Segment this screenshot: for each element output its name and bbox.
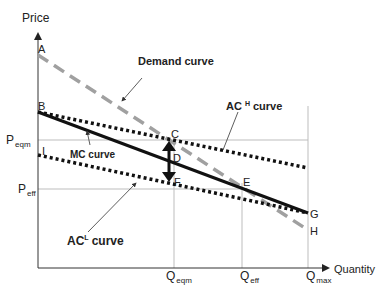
point-g-label: G <box>310 208 319 220</box>
p-eqm-label: Peqm <box>6 133 31 149</box>
point-f-label: F <box>174 176 181 188</box>
mc-label-pointer <box>87 131 90 145</box>
point-e-label: E <box>243 176 250 188</box>
x-axis-title: Quantity <box>334 263 375 275</box>
point-a-label: A <box>38 43 46 55</box>
cost-curve-diagram: Price Quantity Peqm Peff Qeqm Qeff Qmax … <box>0 0 382 290</box>
point-c-label: C <box>171 128 179 140</box>
demand-label-pointer <box>122 78 142 101</box>
y-axis-title: Price <box>22 11 50 25</box>
demand-curve-label: Demand curve <box>138 55 214 67</box>
point-h-label: H <box>310 225 318 237</box>
p-eff-label: Peff <box>18 182 37 198</box>
q-eqm-label: Qeqm <box>166 269 192 285</box>
point-b-label: B <box>38 100 45 112</box>
acl-curve-label: ACLcurve <box>67 234 124 248</box>
mc-curve-label: MC curve <box>70 149 115 160</box>
ach-label-pointer <box>223 112 238 150</box>
q-eff-label: Qeff <box>240 269 260 285</box>
point-i-label: I <box>42 145 45 157</box>
acl-label-pointer <box>88 183 136 232</box>
ach-curve-label: ACHcurve <box>226 100 282 112</box>
q-max-label: Qmax <box>306 269 331 285</box>
point-d-label: D <box>173 152 181 164</box>
